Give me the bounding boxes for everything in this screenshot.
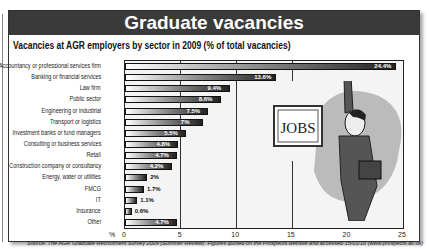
bar <box>125 119 203 126</box>
category-label: Banking or financial services <box>31 73 101 80</box>
bar-value-label: 8.6% <box>199 96 213 102</box>
chart-header: Graduate vacancies <box>9 11 419 35</box>
x-tick-label: 15 <box>287 231 295 238</box>
source-note: Source: The AGR Graduate Recruitment Sur… <box>27 240 423 246</box>
category-label: Accountancy or professional services fir… <box>0 62 101 69</box>
bar <box>125 141 178 148</box>
gridline-10 <box>236 61 237 228</box>
bar-value-label: 9.4% <box>208 85 222 91</box>
category-label: Insurance <box>77 207 101 214</box>
category-label: IT <box>96 196 101 203</box>
chart-subtitle: Vacancies at AGR employers by sector in … <box>13 40 290 51</box>
x-tick-label: 20 <box>342 231 350 238</box>
bar-value-label: 0.6% <box>135 208 149 214</box>
bar <box>125 152 177 159</box>
bar-value-label: 7% <box>181 119 190 125</box>
bar <box>125 208 132 215</box>
x-tick-label: 0 <box>122 231 126 238</box>
bar-value-label: 4.7% <box>155 152 169 158</box>
category-label: Energy, water or utilities <box>42 173 101 180</box>
category-label: Other <box>87 218 101 225</box>
bar <box>125 197 137 204</box>
bar <box>125 219 177 226</box>
x-tick-label: 5 <box>178 231 182 238</box>
category-label: Investment banks or fund managers <box>13 129 101 136</box>
category-label: Engineering or industrial <box>41 107 101 114</box>
category-label: FMCG <box>85 185 101 192</box>
bar <box>125 163 172 170</box>
bar-value-label: 13.6% <box>254 74 271 80</box>
x-tick-label: 10 <box>231 231 239 238</box>
bar-value-label: 2% <box>150 174 159 180</box>
svg-text:JOBS: JOBS <box>280 120 315 136</box>
bar <box>125 174 147 181</box>
bar-value-label: 5.5% <box>164 130 178 136</box>
x-axis-unit: % <box>109 231 115 238</box>
bar <box>125 63 396 70</box>
category-label: Transport or logistics <box>50 118 101 125</box>
bar-value-label: 4.2% <box>150 163 164 169</box>
category-label: Retail <box>87 151 101 158</box>
bar <box>125 186 144 193</box>
page-edge-line <box>2 14 3 242</box>
bar-value-label: 1.7% <box>147 186 161 192</box>
x-tick-label: 25 <box>398 231 406 238</box>
chart-panel: Graduate vacancies Vacancies at AGR empl… <box>8 10 420 242</box>
jobs-illustration-icon: JOBS <box>269 81 424 221</box>
bar-value-label: 24.4% <box>374 63 391 69</box>
bar-value-label: 4.7% <box>155 219 169 225</box>
category-label: Consulting or business services <box>23 140 101 147</box>
bar-value-label: 1.1% <box>140 197 154 203</box>
category-label: Law firm <box>80 84 101 91</box>
bar-value-label: 7.5% <box>186 108 200 114</box>
bar-value-label: 4.8% <box>156 141 170 147</box>
category-label: Construction company or consultancy <box>9 162 101 169</box>
category-label: Public sector <box>69 95 101 102</box>
